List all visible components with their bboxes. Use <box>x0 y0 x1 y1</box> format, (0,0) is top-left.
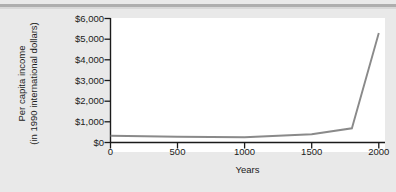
y-axis-title-line1: Per capita income <box>16 11 28 157</box>
y-axis-title: Per capita income (in 1990 international… <box>16 11 39 157</box>
x-axis-title: Years <box>110 164 385 175</box>
x-tick-label: 1500 <box>290 146 334 157</box>
x-tick-label: 2000 <box>357 146 396 157</box>
line-chart: $6,000 $5,000 $4,000 $3,000 $2,000 $1,00… <box>0 10 396 192</box>
x-tick-label: 500 <box>156 146 200 157</box>
y-axis-title-line2: (in 1990 international dollars) <box>27 11 39 157</box>
top-divider-highlight <box>0 7 396 9</box>
x-tick-label: 1000 <box>223 146 267 157</box>
figure-panel: $6,000 $5,000 $4,000 $3,000 $2,000 $1,00… <box>0 0 396 192</box>
x-tick-label: 0 <box>89 146 133 157</box>
